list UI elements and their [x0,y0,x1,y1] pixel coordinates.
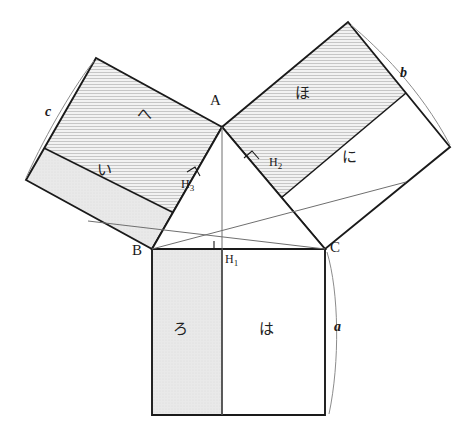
pythagorean-dissection-figure: A B C H1 H2 H3 a b c ろ は い へ ほ に [0,0,466,435]
foot-label-H3-text: H [181,177,190,191]
region-label-ni: に [342,150,357,165]
foot-label-H2: H2 [269,156,282,171]
region-label-ha: は [259,322,274,337]
vertex-label-A: A [210,93,221,108]
foot-label-H1-sub: 1 [234,258,239,268]
vertex-label-C: C [330,240,340,255]
side-label-c: c [45,105,51,119]
foot-label-H1: H1 [225,253,238,268]
foot-label-H2-text: H [269,155,278,169]
vertex-label-B: B [132,243,142,258]
foot-label-H3: H3 [181,178,194,193]
foot-label-H3-sub: 3 [190,183,195,193]
region-label-ro: ろ [173,322,188,337]
side-label-b: b [400,66,407,80]
foot-label-H1-text: H [225,252,234,266]
region-label-he: へ [137,107,152,122]
foot-label-H2-sub: 2 [278,161,283,171]
side-label-a: a [334,320,341,334]
region-label-ho: ほ [295,86,310,101]
region-label-i: い [97,163,112,178]
diagram-svg [0,0,466,435]
